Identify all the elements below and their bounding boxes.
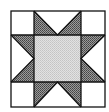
quilt-block <box>0 0 109 112</box>
corner-square-top-left <box>11 11 34 35</box>
center-square <box>34 35 81 82</box>
corner-square-bottom-left <box>11 82 34 107</box>
corner-square-top-right <box>81 11 105 35</box>
corner-square-bottom-right <box>81 82 105 107</box>
